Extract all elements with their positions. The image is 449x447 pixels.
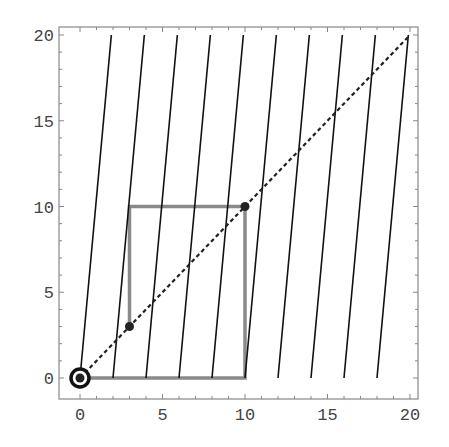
y-tick-label: 10 xyxy=(34,199,54,218)
x-tick-label: 0 xyxy=(75,406,85,425)
x-tick-label: 20 xyxy=(400,406,420,425)
chart: 05101520 05101520 xyxy=(0,0,449,447)
x-tick-label: 5 xyxy=(157,406,167,425)
y-tick-labels: 05101520 xyxy=(34,27,54,389)
x-tick-label: 15 xyxy=(317,406,337,425)
y-tick-label: 0 xyxy=(44,370,54,389)
y-tick-label: 20 xyxy=(34,27,54,46)
x-tick-labels: 05101520 xyxy=(75,406,420,425)
y-tick-label: 5 xyxy=(44,284,54,303)
y-tick-label: 15 xyxy=(34,113,54,132)
x-tick-label: 10 xyxy=(235,406,255,425)
